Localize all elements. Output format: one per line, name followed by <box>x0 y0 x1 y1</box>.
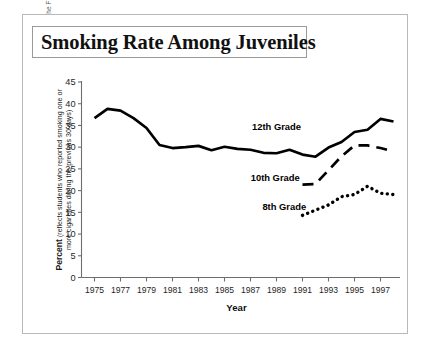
y-tick-label: 40 <box>65 99 75 109</box>
chart-figure: Source: Institute for Social Research, U… <box>0 0 429 348</box>
x-tick-label: 1977 <box>111 285 130 295</box>
y-tick-label: 10 <box>65 229 75 239</box>
x-tick-label: 1997 <box>371 285 390 295</box>
y-tick-label: 30 <box>65 142 75 152</box>
y-tick-label: 20 <box>65 186 75 196</box>
y-tick-label: 45 <box>65 77 75 87</box>
series-label-10th-grade: 10th Grade <box>251 172 300 183</box>
series-line-8th-grade <box>303 186 394 215</box>
series-line-10th-grade <box>303 145 394 184</box>
series-label-8th-grade: 8th Grade <box>262 201 306 212</box>
series-label-group: 12th Grade10th Grade8th Grade <box>251 121 306 212</box>
x-tick-label: 1993 <box>319 285 338 295</box>
x-tick-label: 1985 <box>215 285 234 295</box>
x-tick-label: 1983 <box>189 285 208 295</box>
x-axis-title-text: Year <box>226 302 246 313</box>
y-tick-label: 0 <box>70 273 75 283</box>
y-tick-label: 5 <box>70 251 75 261</box>
x-tick-label: 1975 <box>85 285 104 295</box>
y-tick-label: 25 <box>65 164 75 174</box>
series-label-12th-grade: 12th Grade <box>252 121 301 132</box>
x-tick-label: 1981 <box>163 285 182 295</box>
data-series-group <box>95 109 394 215</box>
x-tick-label: 1979 <box>137 285 156 295</box>
x-tick-label: 1989 <box>267 285 286 295</box>
x-tick-label: 1995 <box>345 285 364 295</box>
x-axis-title: Year <box>0 302 429 313</box>
plot-area: 051015202530354045 197519771979198119831… <box>0 0 429 348</box>
x-tick-label: 1991 <box>293 285 312 295</box>
y-axis: 051015202530354045 <box>65 77 81 282</box>
y-tick-label: 15 <box>65 208 75 218</box>
y-tick-label: 35 <box>65 121 75 131</box>
x-tick-label: 1987 <box>241 285 260 295</box>
x-axis: 1975197719791981198319851987198919911993… <box>82 278 401 295</box>
